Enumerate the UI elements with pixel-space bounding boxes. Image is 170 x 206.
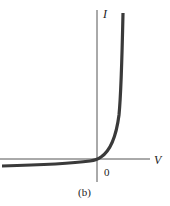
x-axis-label: V <box>154 153 163 167</box>
iv-curve <box>2 13 123 166</box>
y-axis-label: I <box>102 7 108 21</box>
iv-diagram: I V 0 (b) <box>0 0 170 206</box>
origin-label: 0 <box>104 166 110 178</box>
figure-caption: (b) <box>78 186 91 199</box>
